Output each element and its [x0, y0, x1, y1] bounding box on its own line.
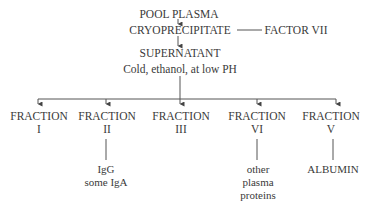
fraction-label: FRACTION	[78, 110, 136, 123]
fraction-label: FRACTION	[302, 110, 360, 123]
factor-vii-node: FACTOR VII	[265, 24, 328, 37]
fraction-numeral: VI	[251, 123, 263, 136]
pool-plasma-node: POOL PLASMA	[139, 8, 218, 21]
fraction-numeral: II	[103, 123, 111, 136]
product-some-iga: some IgA	[84, 176, 127, 189]
fraction-label: FRACTION	[228, 110, 286, 123]
product-albumin: ALBUMIN	[307, 163, 358, 176]
fraction-numeral: I	[37, 123, 41, 136]
cryoprecipitate-node: CRYOPRECIPITATE	[129, 24, 230, 37]
fraction-label: FRACTION	[10, 110, 68, 123]
supernatant-node: SUPERNATANT	[140, 47, 221, 60]
condition-label: Cold, ethanol, at low PH	[123, 63, 237, 76]
fraction-numeral: III	[175, 123, 187, 136]
product-plasma: plasma	[242, 176, 273, 189]
product-other: other	[247, 163, 270, 176]
fraction-label: FRACTION	[152, 110, 210, 123]
product-igg: IgG	[97, 163, 114, 176]
fraction-numeral: V	[327, 123, 335, 136]
product-proteins: proteins	[240, 189, 275, 202]
